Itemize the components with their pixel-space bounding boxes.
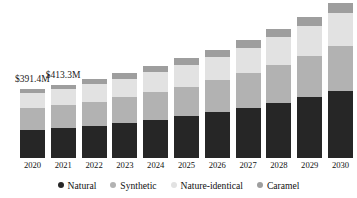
bar-segment-synthetic[interactable] xyxy=(20,108,45,129)
x-tick-2026: 2026 xyxy=(201,159,233,171)
bar-segment-natural[interactable] xyxy=(328,91,353,158)
x-tick-2030: 2030 xyxy=(325,159,357,171)
legend-label: Synthetic xyxy=(120,180,156,191)
x-tick-2023: 2023 xyxy=(109,159,141,171)
x-axis: 2020202120222023202420252026202720282029… xyxy=(0,159,357,173)
bar-segment-natural[interactable] xyxy=(112,123,137,158)
bar-segment-caramel[interactable] xyxy=(205,50,230,57)
legend-label: Caramel xyxy=(267,180,300,191)
bar-segment-synthetic[interactable] xyxy=(112,97,137,123)
bar-2029[interactable] xyxy=(297,17,322,158)
x-tick-2020: 2020 xyxy=(17,159,49,171)
bar-segment-synthetic[interactable] xyxy=(51,105,76,128)
bar-segment-nature-identical[interactable] xyxy=(266,37,291,65)
bar-segment-caramel[interactable] xyxy=(297,17,322,26)
legend-label: Nature-identical xyxy=(181,180,243,191)
x-tick-2022: 2022 xyxy=(78,159,110,171)
bar-segment-nature-identical[interactable] xyxy=(51,89,76,105)
stacked-bar-chart: $391.4M$413.3M 2020202120222023202420252… xyxy=(0,0,357,198)
x-tick-2021: 2021 xyxy=(47,159,79,171)
x-tick-2029: 2029 xyxy=(294,159,326,171)
bar-segment-synthetic[interactable] xyxy=(205,80,230,112)
x-tick-2028: 2028 xyxy=(263,159,295,171)
bar-segment-caramel[interactable] xyxy=(236,40,261,48)
legend-item-synthetic[interactable]: Synthetic xyxy=(110,180,156,191)
bar-segment-synthetic[interactable] xyxy=(297,56,322,97)
bar-2021[interactable] xyxy=(51,85,76,158)
bar-segment-natural[interactable] xyxy=(236,108,261,158)
bar-segment-synthetic[interactable] xyxy=(82,102,107,126)
bar-segment-nature-identical[interactable] xyxy=(328,13,353,46)
bar-segment-natural[interactable] xyxy=(51,128,76,158)
bar-2024[interactable] xyxy=(143,66,168,158)
bar-segment-natural[interactable] xyxy=(297,97,322,158)
legend-swatch-icon xyxy=(58,182,64,188)
data-label-2021: $413.3M xyxy=(46,71,81,81)
bar-segment-nature-identical[interactable] xyxy=(297,26,322,56)
bar-segment-natural[interactable] xyxy=(82,126,107,158)
data-label-2020: $391.4M xyxy=(15,75,50,85)
bar-segment-nature-identical[interactable] xyxy=(174,65,199,87)
bar-2028[interactable] xyxy=(266,29,291,158)
x-tick-2027: 2027 xyxy=(232,159,264,171)
bar-2020[interactable] xyxy=(20,89,45,158)
legend-item-nature-identical[interactable]: Nature-identical xyxy=(171,180,243,191)
bar-segment-synthetic[interactable] xyxy=(174,87,199,117)
legend-swatch-icon xyxy=(171,182,177,188)
bar-segment-synthetic[interactable] xyxy=(143,92,168,120)
bar-segment-nature-identical[interactable] xyxy=(112,79,137,97)
legend-item-natural[interactable]: Natural xyxy=(58,180,97,191)
legend-label: Natural xyxy=(68,180,97,191)
x-tick-2024: 2024 xyxy=(140,159,172,171)
legend-swatch-icon xyxy=(110,182,116,188)
bar-segment-nature-identical[interactable] xyxy=(20,93,45,108)
bar-segment-natural[interactable] xyxy=(20,130,45,158)
bar-segment-synthetic[interactable] xyxy=(266,65,291,103)
bar-segment-caramel[interactable] xyxy=(266,29,291,37)
bar-segment-synthetic[interactable] xyxy=(236,73,261,108)
bar-segment-nature-identical[interactable] xyxy=(205,57,230,80)
bar-2027[interactable] xyxy=(236,40,261,158)
legend-swatch-icon xyxy=(257,182,263,188)
bar-segment-natural[interactable] xyxy=(205,112,230,158)
x-tick-2025: 2025 xyxy=(171,159,203,171)
bar-segment-natural[interactable] xyxy=(143,120,168,158)
bar-segment-nature-identical[interactable] xyxy=(143,72,168,92)
bar-2023[interactable] xyxy=(112,73,137,158)
bar-segment-nature-identical[interactable] xyxy=(82,84,107,101)
bar-segment-nature-identical[interactable] xyxy=(236,48,261,73)
chart-legend: NaturalSyntheticNature-identicalCaramel xyxy=(0,177,357,193)
bar-segment-synthetic[interactable] xyxy=(328,46,353,91)
bar-segment-caramel[interactable] xyxy=(328,3,353,13)
legend-item-caramel[interactable]: Caramel xyxy=(257,180,300,191)
bar-2025[interactable] xyxy=(174,58,199,158)
bar-2026[interactable] xyxy=(205,50,230,158)
bar-2030[interactable] xyxy=(328,3,353,158)
bar-segment-natural[interactable] xyxy=(174,116,199,158)
bar-segment-natural[interactable] xyxy=(266,103,291,158)
bar-2022[interactable] xyxy=(82,79,107,158)
plot-area: $391.4M$413.3M xyxy=(0,0,357,158)
